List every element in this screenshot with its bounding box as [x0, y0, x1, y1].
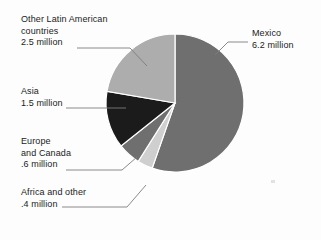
callout-africa-line1: Africa and other [21, 187, 86, 199]
pie-chart-figure: Other Latin American countries 2.5 milli… [0, 0, 321, 240]
callout-africa-value: .4 million [21, 199, 86, 211]
callout-latin-line1: Other Latin American [21, 14, 108, 26]
pie-slices [106, 34, 244, 172]
callout-label-other-latin-american: Other Latin American countries 2.5 milli… [21, 14, 108, 49]
callout-europe-value: .6 million [21, 159, 71, 171]
callout-asia-line1: Asia [21, 86, 63, 98]
callout-europe-line2: and Canada [21, 148, 71, 160]
callout-label-mexico: Mexico 6.2 million [252, 28, 294, 51]
callout-mexico-line1: Mexico [252, 28, 294, 40]
callout-europe-line1: Europe [21, 136, 71, 148]
callout-label-europe-and-canada: Europe and Canada .6 million [21, 136, 71, 171]
callout-label-asia: Asia 1.5 million [21, 86, 63, 109]
callout-latin-value: 2.5 million [21, 37, 108, 49]
callout-asia-value: 1.5 million [21, 98, 63, 110]
pie-slice-other-latin-american[interactable] [107, 34, 175, 103]
scan-artifact-mark [271, 180, 275, 183]
leader-line-europe [66, 157, 137, 170]
callout-label-africa-and-other: Africa and other .4 million [21, 187, 86, 210]
callout-latin-line2: countries [21, 26, 108, 38]
callout-mexico-value: 6.2 million [252, 40, 294, 52]
